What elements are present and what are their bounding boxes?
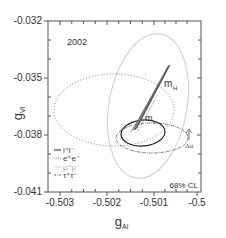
contour-ll (120, 118, 166, 148)
svg-text:Al: Al (122, 223, 129, 230)
y-tick-label: -0.035 (14, 72, 43, 83)
legend-ee: e⁺e⁻ (63, 154, 80, 163)
svg-text:Vl: Vl (19, 106, 26, 113)
contour-ee (54, 74, 174, 146)
y-tick-label: -0.038 (14, 129, 43, 140)
x-tick-label: -0.5 (188, 197, 206, 208)
year-annotation: 2002 (67, 37, 87, 47)
delta-alpha-arrow: Δα (185, 129, 194, 150)
x-axis-ticks (60, 21, 197, 196)
svg-text:t: t (153, 119, 155, 125)
y-axis-label: g Vl (10, 106, 26, 120)
svg-text:g: g (10, 113, 25, 120)
x-axis-label: g Al (115, 214, 129, 230)
mh-label: m H (164, 78, 177, 91)
svg-text:m: m (164, 78, 172, 89)
y-tick-label: -0.041 (14, 186, 43, 197)
svg-text:Δα: Δα (185, 142, 194, 150)
x-tick-label: -0.502 (93, 197, 122, 208)
contour-tautau (116, 123, 188, 153)
x-tick-label: -0.501 (140, 197, 169, 208)
chart: -0.032 -0.035 -0.038 -0.041 -0.503 -0.50… (0, 0, 226, 238)
y-tick-label: -0.032 (14, 15, 43, 26)
x-tick-label: -0.503 (46, 197, 75, 208)
confidence-label: 68% CL (170, 181, 199, 190)
legend: l⁺l⁻ e⁺e⁻ μ⁺μ⁻ τ⁺τ⁻ (54, 146, 80, 180)
svg-text:g: g (115, 214, 122, 229)
svg-text:m: m (145, 113, 153, 123)
svg-text:H: H (173, 85, 177, 91)
legend-tautau: τ⁺τ⁻ (63, 171, 77, 180)
